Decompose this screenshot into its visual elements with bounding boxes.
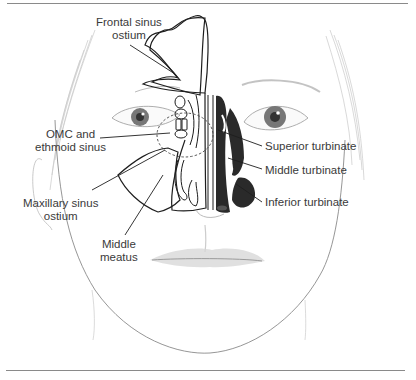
eye-left bbox=[112, 106, 180, 126]
philtrum bbox=[205, 225, 206, 252]
label-line-2: ostium bbox=[96, 29, 162, 42]
eyebrow-right bbox=[242, 80, 320, 92]
label-line-2: ethmoid sinus bbox=[35, 141, 106, 154]
neck-left bbox=[92, 290, 94, 340]
label-line-2: ostium bbox=[23, 210, 98, 223]
eyebrow-left bbox=[135, 86, 180, 92]
label-line-1: Maxillary sinus bbox=[23, 197, 98, 210]
lips bbox=[150, 248, 265, 267]
label-frontal-sinus-ostium: Frontal sinus ostium bbox=[96, 16, 162, 42]
right-turbinates bbox=[216, 96, 255, 213]
maxillary-sinus bbox=[118, 148, 180, 212]
label-middle-meatus: Middle meatus bbox=[100, 238, 138, 264]
label-middle-turbinate: Middle turbinate bbox=[265, 164, 347, 177]
label-inferior-turbinate: Inferior turbinate bbox=[265, 196, 349, 209]
label-line-1: OMC and bbox=[35, 128, 106, 141]
face-anatomy-illustration bbox=[0, 0, 416, 380]
label-line-1: Middle bbox=[100, 238, 138, 251]
label-maxillary-sinus-ostium: Maxillary sinus ostium bbox=[23, 197, 98, 223]
label-line-2: meatus bbox=[100, 251, 138, 264]
label-omc-ethmoid: OMC and ethmoid sinus bbox=[35, 128, 106, 154]
hair-right bbox=[326, 30, 364, 180]
label-line-1: Frontal sinus bbox=[96, 16, 162, 29]
neck-right bbox=[305, 300, 306, 340]
face-outline bbox=[55, 120, 345, 353]
nostril-right bbox=[217, 206, 227, 211]
septum bbox=[208, 95, 213, 210]
hair-left bbox=[50, 30, 95, 190]
label-superior-turbinate: Superior turbinate bbox=[265, 140, 356, 153]
middle-turbinate-gap bbox=[229, 160, 232, 176]
inferior-turbinate-left bbox=[189, 180, 198, 206]
ethmoid-cells bbox=[175, 95, 199, 148]
eye-right bbox=[244, 106, 308, 130]
